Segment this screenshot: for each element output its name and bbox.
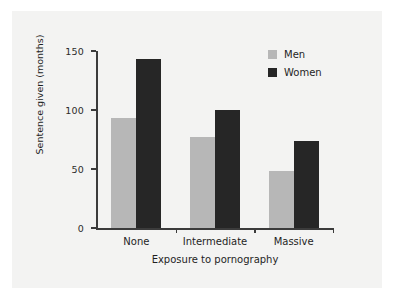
x-axis-tick xyxy=(254,229,255,233)
bar-women-intermediate xyxy=(215,110,240,228)
legend-item-men: Men xyxy=(268,47,322,62)
x-axis-label-massive: Massive xyxy=(274,236,314,247)
x-axis-tick xyxy=(176,229,177,233)
bar-men-intermediate xyxy=(190,137,215,228)
y-axis-tick xyxy=(91,168,96,169)
y-axis-tick xyxy=(91,50,96,51)
y-axis-tick-label: 150 xyxy=(54,46,84,57)
y-axis-tick-label: 100 xyxy=(54,105,84,116)
legend-item-women: Women xyxy=(268,65,322,80)
x-axis-label-intermediate: Intermediate xyxy=(183,236,248,247)
bar-men-none xyxy=(111,118,136,228)
x-axis-tick xyxy=(333,229,334,233)
x-axis-line xyxy=(96,228,334,230)
bar-men-massive xyxy=(269,171,294,228)
legend-label-men: Men xyxy=(284,50,305,60)
chart-figure: 050100150 NoneIntermediateMassive Exposu… xyxy=(12,11,382,288)
legend-label-women: Women xyxy=(284,68,322,78)
y-axis-tick xyxy=(91,109,96,110)
legend-swatch-men xyxy=(268,50,277,59)
x-axis-label-none: None xyxy=(123,236,149,247)
y-axis-tick-label: 0 xyxy=(54,223,84,234)
y-axis-title: Sentence given (months) xyxy=(34,20,45,170)
x-axis-title: Exposure to pornography xyxy=(97,254,333,265)
y-axis-tick-label: 50 xyxy=(54,164,84,175)
legend-swatch-women xyxy=(268,68,277,77)
bar-women-none xyxy=(136,59,161,228)
bar-women-massive xyxy=(294,141,319,228)
chart-legend: MenWomen xyxy=(268,47,322,83)
y-axis-tick xyxy=(91,227,96,228)
